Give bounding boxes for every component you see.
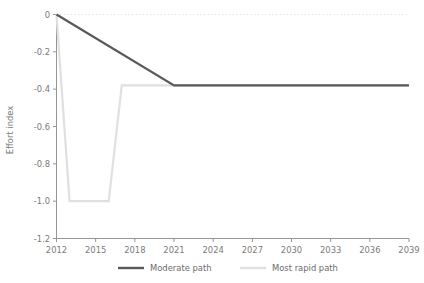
y-tick-label: -0.8 <box>34 159 50 169</box>
series-line <box>57 15 410 202</box>
x-tick-label: 2036 <box>359 245 380 255</box>
chart-canvas: Effort index 0-0.2-0.4-0.6-0.8-1.0-1.2 2… <box>0 0 424 283</box>
x-tick-label: 2018 <box>124 245 145 255</box>
x-tick-label: 2012 <box>46 245 67 255</box>
x-tick-label: 2021 <box>163 245 184 255</box>
x-tick-label: 2039 <box>398 245 419 255</box>
y-axis-title-group: Effort index <box>5 106 15 155</box>
y-tick-label: -0.6 <box>34 122 50 132</box>
y-tick-label: 0 <box>45 10 50 20</box>
series-lines <box>57 15 410 202</box>
y-tick-label: -0.2 <box>34 47 50 57</box>
x-tick-label: 2015 <box>85 245 106 255</box>
x-tick-label: 2027 <box>242 245 263 255</box>
legend-label: Moderate path <box>150 263 212 273</box>
legend-label: Most rapid path <box>272 263 338 273</box>
y-axis: 0-0.2-0.4-0.6-0.8-1.0-1.2 <box>34 10 57 244</box>
y-tick-label: -0.4 <box>34 84 50 94</box>
x-tick-label: 2024 <box>203 245 224 255</box>
x-tick-label: 2030 <box>281 245 302 255</box>
y-axis-title: Effort index <box>5 106 15 155</box>
series-line <box>57 15 410 86</box>
x-axis: 2012201520182021202420272030203320362039 <box>46 239 420 255</box>
chart-legend: Moderate pathMost rapid path <box>118 263 338 273</box>
y-tick-label: -1.0 <box>34 196 50 206</box>
y-tick-label: -1.2 <box>34 234 50 244</box>
effort-index-chart: Effort index 0-0.2-0.4-0.6-0.8-1.0-1.2 2… <box>0 0 424 283</box>
x-tick-label: 2033 <box>320 245 341 255</box>
